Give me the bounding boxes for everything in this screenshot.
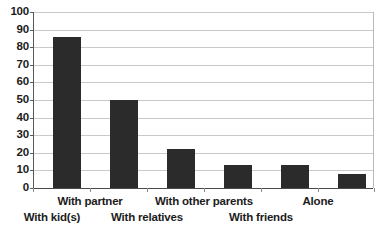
y-axis-tick-label: 20 [3,147,29,159]
y-axis-tick [30,170,34,171]
y-axis-tick-label: 100 [3,6,29,18]
x-axis-tick [261,188,262,192]
y-axis-tick [30,65,34,66]
plot-area [33,12,374,188]
y-axis-tick [30,30,34,31]
y-axis-tick [30,135,34,136]
y-axis-tick [30,100,34,101]
gridline [34,47,373,48]
gridline [34,170,373,171]
x-axis-category-label: With relatives [87,212,207,224]
gridline [34,118,373,119]
y-axis-tick [30,82,34,83]
y-axis-tick-label: 40 [3,112,29,124]
gridline [34,135,373,136]
y-axis-tick-label: 50 [3,94,29,106]
gridline [34,82,373,83]
bar [224,165,252,188]
bar-chart: 100 90 80 70 60 50 40 30 20 10 0 [0,0,390,236]
y-axis-tick-label: 90 [3,24,29,36]
bar [167,149,195,188]
x-axis-category-label: Alone [258,196,378,208]
y-axis-tick [30,47,34,48]
bar [281,165,309,188]
bar [110,100,138,188]
y-axis-tick [30,118,34,119]
x-axis-tick [204,188,205,192]
x-axis-category-label: With friends [201,212,321,224]
gridline [34,65,373,66]
x-axis-tick [90,188,91,192]
x-axis-category-label: With other parents [134,196,274,208]
x-axis-tick [147,188,148,192]
x-axis-tick [374,188,375,192]
gridline [34,30,373,31]
y-axis-tick-label: 10 [3,164,29,176]
y-axis-tick-label: 60 [3,76,29,88]
y-axis-tick [30,153,34,154]
x-axis-tick [318,188,319,192]
y-axis-tick-label: 30 [3,129,29,141]
y-axis-tick-label: 80 [3,41,29,53]
gridline [34,12,373,13]
x-axis-tick [33,188,34,192]
x-axis-category-label: With partner [30,196,150,208]
bar [338,174,366,188]
y-axis-tick-label: 0 [3,182,29,194]
y-axis-tick-label: 70 [3,59,29,71]
gridline [34,153,373,154]
gridline [34,100,373,101]
bar [53,37,81,188]
y-axis-tick [30,12,34,13]
